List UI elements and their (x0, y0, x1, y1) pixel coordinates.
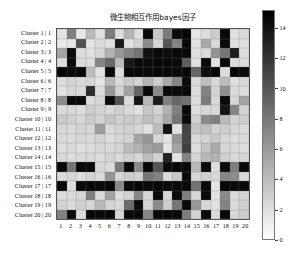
heatmap-cell (134, 210, 144, 220)
heatmap-cell (67, 124, 77, 134)
heatmap-cell (220, 181, 230, 191)
heatmap-cell (57, 86, 67, 96)
y-tick-label: Cluster 5 | 5 (0, 66, 54, 76)
heatmap-cell (76, 96, 86, 106)
heatmap-cell (182, 86, 192, 96)
heatmap-cell (115, 48, 125, 58)
x-tick-label: 12 (163, 221, 173, 233)
heatmap-cell (115, 115, 125, 125)
heatmap-cell (220, 105, 230, 115)
heatmap-cell (182, 162, 192, 172)
colorbar-tick: 4 (275, 176, 283, 182)
colorbar-tick: 2 (275, 207, 283, 213)
heatmap-cell (211, 153, 221, 163)
heatmap-cell (143, 105, 153, 115)
heatmap-cell (95, 48, 105, 58)
heatmap-cell (230, 77, 240, 87)
x-axis-labels: 1234567891011121314151617181920 (56, 221, 250, 233)
heatmap-cell (105, 48, 115, 58)
heatmap-cell (134, 115, 144, 125)
x-tick-label: 9 (134, 221, 144, 233)
heatmap-cell (86, 39, 96, 49)
heatmap-cell (115, 162, 125, 172)
heatmap-cell (230, 105, 240, 115)
heatmap-cell (220, 77, 230, 87)
y-tick-label: Cluster 20 | 20 (0, 210, 54, 220)
x-tick-label: 16 (201, 221, 211, 233)
heatmap-cell (239, 181, 249, 191)
heatmap-cell (182, 200, 192, 210)
heatmap-cell (172, 143, 182, 153)
heatmap-cell (86, 134, 96, 144)
heatmap-cell (239, 162, 249, 172)
heatmap-cell (239, 124, 249, 134)
heatmap-cell (134, 162, 144, 172)
heatmap-cell (95, 39, 105, 49)
colorbar-tick-dash-icon (275, 119, 278, 120)
y-tick-label: Cluster 12 | 12 (0, 134, 54, 144)
heatmap-cell (211, 96, 221, 106)
x-tick-label: 1 (56, 221, 66, 233)
heatmap-cell (172, 200, 182, 210)
heatmap-cell (163, 67, 173, 77)
colorbar-tick-dash-icon (275, 88, 278, 89)
colorbar-tick: 8 (275, 116, 283, 122)
heatmap-cell (124, 96, 134, 106)
heatmap-cell (191, 200, 201, 210)
heatmap-cell (172, 210, 182, 220)
heatmap-cell (143, 172, 153, 182)
heatmap-cell (220, 172, 230, 182)
heatmap-cell (86, 200, 96, 210)
heatmap-cell (86, 86, 96, 96)
heatmap-cell (86, 29, 96, 39)
heatmap-cell (95, 162, 105, 172)
heatmap-cell (220, 96, 230, 106)
heatmap-cell (172, 67, 182, 77)
heatmap-cell (211, 134, 221, 144)
heatmap-cell (191, 124, 201, 134)
heatmap-cell (76, 105, 86, 115)
heatmap-cell (163, 105, 173, 115)
y-tick-label: Cluster 15 | 15 (0, 162, 54, 172)
heatmap-cell (143, 77, 153, 87)
heatmap-cell (153, 67, 163, 77)
heatmap-cell (153, 162, 163, 172)
heatmap-cell (163, 29, 173, 39)
heatmap-cell (172, 58, 182, 68)
y-tick-label: Cluster 2 | 2 (0, 38, 54, 48)
heatmap-cell (67, 58, 77, 68)
heatmap-cell (115, 29, 125, 39)
heatmap-cell (124, 77, 134, 87)
heatmap-cell (143, 153, 153, 163)
heatmap-cell (57, 200, 67, 210)
heatmap-cell (182, 115, 192, 125)
heatmap-cell (115, 124, 125, 134)
heatmap-cell (105, 115, 115, 125)
y-tick-label: Cluster 16 | 16 (0, 172, 54, 182)
heatmap-cell (163, 172, 173, 182)
y-tick-label: Cluster 4 | 4 (0, 57, 54, 67)
heatmap-cell (95, 58, 105, 68)
heatmap-cell (134, 48, 144, 58)
heatmap-cell (67, 200, 77, 210)
heatmap-cell (211, 181, 221, 191)
heatmap-cell (163, 210, 173, 220)
heatmap-cell (163, 96, 173, 106)
heatmap-cell (153, 86, 163, 96)
heatmap-cell (134, 200, 144, 210)
heatmap-cell (115, 134, 125, 144)
heatmap-cell (143, 29, 153, 39)
heatmap-cell (134, 134, 144, 144)
heatmap-cell (105, 181, 115, 191)
y-tick-label: Cluster 19 | 19 (0, 201, 54, 211)
heatmap-cell (220, 210, 230, 220)
heatmap-cell (239, 86, 249, 96)
heatmap-cell (67, 86, 77, 96)
heatmap-cell (76, 200, 86, 210)
heatmap-cell (105, 153, 115, 163)
heatmap-cell (124, 172, 134, 182)
heatmap-cell (191, 29, 201, 39)
heatmap-cell (134, 39, 144, 49)
heatmap-cell (153, 191, 163, 201)
heatmap-cell (230, 210, 240, 220)
